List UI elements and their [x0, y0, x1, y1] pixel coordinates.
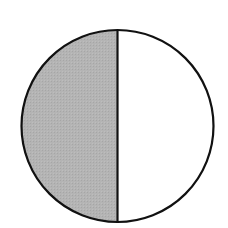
fraction-circle-diagram — [0, 0, 228, 228]
